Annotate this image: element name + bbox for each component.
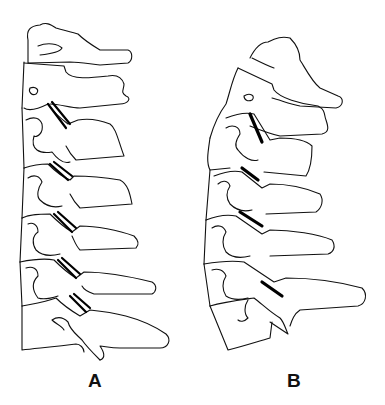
panel-label-b: B (287, 370, 301, 392)
spine-drawing-b (0, 0, 385, 405)
cervical-spine-figure: A B (0, 0, 385, 405)
panel-label-a: A (88, 370, 102, 392)
panel-b-vertebrae (204, 37, 365, 350)
panel-b-facet-joints (240, 114, 282, 296)
